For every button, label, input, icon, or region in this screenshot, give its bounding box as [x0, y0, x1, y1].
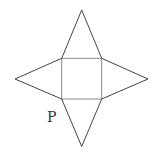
left-triangle	[15, 58, 62, 99]
point-label-p: P	[47, 109, 56, 125]
pyramid-net-diagram	[0, 0, 160, 153]
right-triangle	[102, 58, 148, 99]
center-square	[62, 58, 102, 99]
bottom-triangle	[62, 99, 102, 147]
top-triangle	[62, 10, 102, 58]
